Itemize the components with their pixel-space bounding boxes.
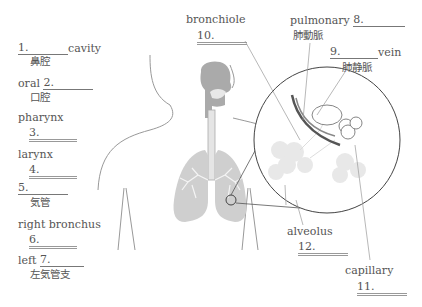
blank-12[interactable]: 12. [298,240,348,256]
label-12-en: alveolus [287,225,333,238]
label-9-jp: 肺静脈 [342,61,372,73]
label-8-pulmonary-artery: pulmonary 8. [290,13,405,27]
label-4-en: larynx [18,148,53,161]
label-2-oral-cavity: oral 2. [18,76,93,90]
label-4: 4. [29,163,77,179]
blank-8[interactable]: 8. [353,13,405,27]
label-10: 10. [197,29,247,45]
blank-6[interactable]: 6. [29,233,77,249]
label-10-en: bronchiole [186,13,245,26]
label-2-jp: 口腔 [30,91,50,103]
blank-3[interactable]: 3. [29,126,77,142]
label-3: 3. [29,126,77,142]
trachea [208,110,215,180]
label-5-jp: 気管 [30,196,50,208]
label-5: 5. [18,181,68,195]
left-lung [215,150,247,222]
label-7-left-bronchus: left 7. [18,253,84,267]
label-6-en: right bronchus [18,218,101,231]
blank-4[interactable]: 4. [29,163,77,179]
label-11: 11. [357,280,407,296]
label-6: 6. [29,233,77,249]
right-lung [173,150,208,222]
label-9-pulmonary-vein: 9.vein [330,45,401,59]
blank-10[interactable]: 10. [197,29,247,45]
blank-9[interactable]: 9. [330,45,378,59]
label-3-en: pharynx [18,111,63,124]
label-11-en: capillary [345,264,393,277]
blank-5[interactable]: 5. [18,181,68,195]
blank-2[interactable]: 2. [43,76,93,90]
label-8-jp: 肺動脈 [293,29,323,41]
label-12: 12. [298,240,348,256]
blank-1[interactable]: 1. [18,41,68,55]
left-shoulder-outline [98,55,173,190]
head-airway [200,61,234,118]
label-7-jp: 左気管支 [30,268,70,280]
label-1-jp: 鼻腔 [30,55,50,67]
label-1-nasal-cavity: 1.cavity [18,41,101,55]
blank-7[interactable]: 7. [40,253,84,267]
blank-11[interactable]: 11. [357,280,407,296]
